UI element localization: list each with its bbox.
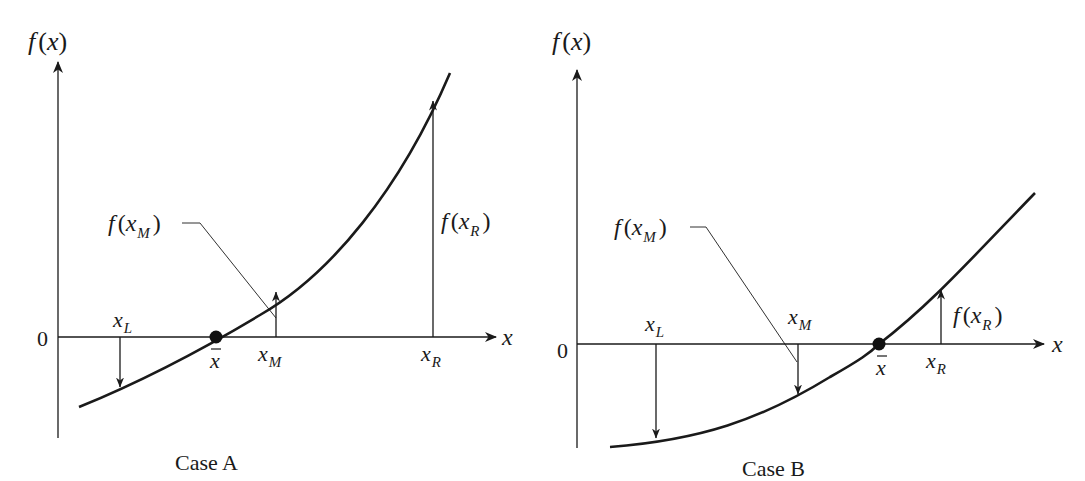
fxM-label: f(xM) xyxy=(614,214,667,245)
xR-label: xR xyxy=(420,341,441,370)
xM-label: xM xyxy=(787,304,813,333)
y-axis-label: f(x) xyxy=(28,27,67,56)
fxM-leader-line xyxy=(690,227,797,362)
fxM-leader-line xyxy=(182,223,276,318)
x-axis-label: x xyxy=(501,324,513,350)
xR-label: xR xyxy=(925,348,946,377)
root-point xyxy=(210,331,223,344)
panel-case-b: f(x) x 0 x xL xM f(xM) xR f(xR) xyxy=(552,27,1063,448)
panel-case-a: f(x) x 0 x xL xM f(xM) xR f( xyxy=(28,27,513,438)
x-axis-label: x xyxy=(1051,331,1063,357)
fxR-label: f(xR) xyxy=(953,302,1003,333)
caption-case-b: Case B xyxy=(742,456,805,481)
caption-case-a: Case A xyxy=(175,450,238,475)
xL-label: xL xyxy=(644,311,664,340)
y-axis-label: f(x) xyxy=(552,27,591,56)
root-point xyxy=(873,338,886,351)
xL-label: xL xyxy=(112,307,132,336)
bisection-figure: f(x) x 0 x xL xM f(xM) xR f( xyxy=(0,0,1085,481)
root-label: x xyxy=(209,348,220,373)
zero-label: 0 xyxy=(37,326,48,351)
root-label: x xyxy=(875,355,886,380)
fxR-label: f(xR) xyxy=(441,208,491,239)
xM-label: xM xyxy=(257,341,283,370)
fxM-label: f(xM) xyxy=(108,210,161,241)
zero-label: 0 xyxy=(557,338,568,363)
